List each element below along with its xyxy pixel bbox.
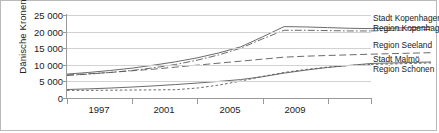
gridline — [67, 15, 371, 16]
x-axis-line — [67, 98, 372, 99]
legend-item-region-kopenhagen: Region Kopenhagen — [373, 23, 437, 33]
x-tick-label-2005: 2005 — [219, 104, 240, 115]
chart-frame: Dänische Kronen 0 5 000 10 000 15 000 20… — [0, 0, 437, 131]
legend-item-region-seeland: Region Seeland — [373, 40, 437, 50]
series-line — [67, 64, 371, 90]
x-tick-mark — [263, 99, 264, 104]
x-tick-mark — [67, 99, 68, 104]
gridline — [67, 65, 371, 66]
y-tick-label-25000: 25 000 — [34, 10, 63, 21]
series-lines — [67, 15, 371, 98]
legend-item-region-schonen: Region Schonen — [373, 64, 437, 74]
gridline — [67, 48, 371, 49]
legend-spacer — [373, 33, 437, 40]
x-tick-mark — [328, 99, 329, 104]
y-tick-label-5000: 5 000 — [39, 76, 63, 87]
chart-legend: Stadt Kopenhagen Region Kopenhagen Regio… — [373, 13, 437, 74]
legend-item-stadt-malmo: Stadt Malmö — [373, 54, 437, 64]
x-tick-mark — [371, 99, 372, 104]
y-tick-label-10000: 10 000 — [34, 59, 63, 70]
x-tick-mark — [197, 99, 198, 104]
x-tick-label-1997: 1997 — [88, 104, 109, 115]
x-tick-mark — [132, 99, 133, 104]
legend-item-stadt-kopenhagen: Stadt Kopenhagen — [373, 13, 437, 23]
y-axis-line — [66, 14, 67, 99]
gridline — [67, 81, 371, 82]
x-tick-label-2009: 2009 — [284, 104, 305, 115]
series-line — [67, 63, 371, 89]
y-axis-title: Dänische Kronen — [17, 0, 28, 84]
y-tick-label-20000: 20 000 — [34, 26, 63, 37]
x-tick-label-2001: 2001 — [153, 104, 174, 115]
plot-area — [67, 15, 371, 98]
gridline — [67, 32, 371, 33]
y-tick-label-15000: 15 000 — [34, 43, 63, 54]
